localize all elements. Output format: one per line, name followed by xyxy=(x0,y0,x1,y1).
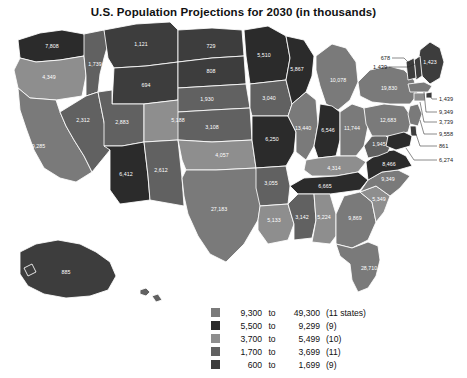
state-label-id: 1,739 xyxy=(88,61,101,67)
state-label-sd: 808 xyxy=(207,68,216,74)
state-mo[interactable] xyxy=(252,116,296,168)
callout-label-ri: 1,439 xyxy=(439,96,453,102)
legend-row: 600 to 1,699 (9) xyxy=(211,358,383,371)
legend-row: 5,500 to 9,299 (9) xyxy=(211,319,383,332)
map-legend: 9,300 to 49,300 (11 states) 5,500 to 9,2… xyxy=(211,306,383,371)
state-label-mi: 10,078 xyxy=(330,77,346,83)
legend-swatch xyxy=(211,308,220,317)
state-label-wv: 1,945 xyxy=(372,141,385,147)
callout-label-nh: 1,439 xyxy=(373,64,387,70)
legend-state-count: (11 states) xyxy=(326,308,366,318)
state-label-pa: 12,683 xyxy=(380,117,396,123)
legend-range-low: 9,300 xyxy=(226,308,262,318)
state-label-tn: 6,665 xyxy=(318,183,331,189)
legend-range-high: 9,299 xyxy=(282,321,320,331)
state-label-wa: 7,808 xyxy=(45,43,58,49)
state-label-ny: 19,830 xyxy=(381,85,397,91)
state-hi[interactable] xyxy=(140,288,162,302)
legend-state-count: (11) xyxy=(326,347,341,357)
state-label-nc: 9,349 xyxy=(381,176,394,182)
legend-swatch xyxy=(211,360,220,369)
legend-range-high: 5,499 xyxy=(282,334,320,344)
state-label-la: 5,133 xyxy=(267,217,280,223)
state-label-ut: 2,883 xyxy=(115,119,128,125)
legend-swatch xyxy=(211,347,220,356)
legend-state-count: (10) xyxy=(326,334,341,344)
state-tx[interactable] xyxy=(182,168,262,262)
state-nj[interactable] xyxy=(408,104,422,126)
legend-range-separator: to xyxy=(262,360,282,370)
leader-de xyxy=(416,134,437,146)
legend-swatch xyxy=(211,321,220,330)
state-label-ms: 3,142 xyxy=(295,214,308,220)
leader-md xyxy=(406,148,437,160)
legend-range-separator: to xyxy=(262,321,282,331)
state-label-fl: 28,710 xyxy=(361,265,377,271)
callout-label-ct: 3,739 xyxy=(439,119,453,125)
state-label-sc: 5,349 xyxy=(372,196,385,202)
state-label-il: 13,440 xyxy=(295,125,311,131)
state-label-ks: 3,108 xyxy=(205,124,218,130)
state-label-mt: 1,121 xyxy=(134,41,147,47)
callout-label-ma: 9,349 xyxy=(439,109,453,115)
state-label-mn: 5,510 xyxy=(257,52,270,58)
state-label-ca: 49,285 xyxy=(29,143,45,149)
legend-range-separator: to xyxy=(262,334,282,344)
legend-range-low: 1,700 xyxy=(226,347,262,357)
state-label-az: 6,412 xyxy=(119,171,132,177)
callout-label-de: 861 xyxy=(439,143,448,149)
callout-label-vt: 678 xyxy=(381,55,390,61)
legend-state-count: (9) xyxy=(326,360,337,370)
state-ri[interactable] xyxy=(426,92,432,98)
legend-range-high: 3,699 xyxy=(282,347,320,357)
map-figure: U.S. Population Projections for 2030 (in… xyxy=(0,0,467,378)
callout-label-md: 6,274 xyxy=(439,157,453,163)
state-label-oh: 11,744 xyxy=(344,125,360,131)
callout-label-nj: 9,558 xyxy=(439,131,453,137)
state-label-nv: 2,312 xyxy=(76,117,89,123)
state-ct[interactable] xyxy=(414,93,425,101)
state-label-ga: 9,869 xyxy=(348,215,361,221)
legend-range-separator: to xyxy=(262,308,282,318)
legend-row: 3,700 to 5,499 (10) xyxy=(211,332,383,345)
legend-range-low: 3,700 xyxy=(226,334,262,344)
state-label-mo: 6,250 xyxy=(265,136,278,142)
legend-range-low: 5,500 xyxy=(226,321,262,331)
state-ne[interactable] xyxy=(178,84,250,112)
state-label-tx: 27,183 xyxy=(211,206,227,212)
state-label-va: 8,466 xyxy=(382,161,395,167)
legend-swatch xyxy=(211,334,220,343)
state-ma[interactable] xyxy=(408,82,432,92)
state-label-al: 5,224 xyxy=(317,214,330,220)
state-label-ne: 1,930 xyxy=(200,96,213,102)
state-label-nd: 729 xyxy=(207,43,216,49)
state-nm[interactable] xyxy=(144,140,184,206)
state-label-ky: 4,314 xyxy=(327,165,340,171)
legend-row: 1,700 to 3,699 (11) xyxy=(211,345,383,358)
state-label-ar: 3,055 xyxy=(264,180,277,186)
state-label-nm: 2,612 xyxy=(154,167,167,173)
state-label-ia: 3,040 xyxy=(262,95,275,101)
state-label-hi: 1,812 xyxy=(145,307,158,313)
state-label-wy: 694 xyxy=(142,82,151,88)
legend-range-low: 600 xyxy=(226,360,262,370)
state-label-or: 4,349 xyxy=(42,74,55,80)
state-label-ak: 885 xyxy=(62,269,71,275)
legend-row: 9,300 to 49,300 (11 states) xyxy=(211,306,383,319)
state-label-co: 5,188 xyxy=(171,117,184,123)
legend-range-high: 1,699 xyxy=(282,360,320,370)
state-label-in: 6,546 xyxy=(321,127,334,133)
state-label-me: 1,423 xyxy=(423,59,436,65)
state-ar[interactable] xyxy=(256,166,290,206)
state-la[interactable] xyxy=(258,204,294,244)
legend-range-high: 49,300 xyxy=(282,308,320,318)
state-label-ok: 4,057 xyxy=(215,152,228,158)
state-label-wi: 5,867 xyxy=(290,66,303,72)
legend-range-separator: to xyxy=(262,347,282,357)
legend-state-count: (9) xyxy=(326,321,337,331)
